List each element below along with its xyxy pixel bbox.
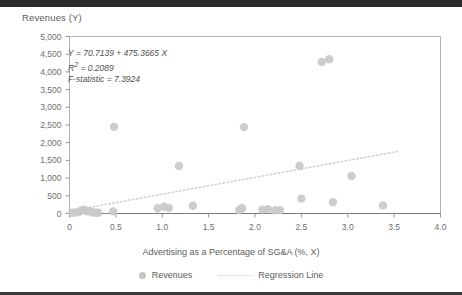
legend-line-icon xyxy=(218,275,252,276)
r-squared-line: R2 = 0.2089 xyxy=(68,60,167,74)
data-point xyxy=(318,58,326,66)
legend-label-regression: Regression Line xyxy=(258,270,323,280)
y-tick-label: 3,000 xyxy=(40,102,62,112)
x-tick-label: 0.5 xyxy=(110,222,122,232)
data-point xyxy=(94,209,102,217)
data-point xyxy=(110,123,118,131)
data-point xyxy=(379,201,387,209)
regression-annotation: Y = 70.7139 + 475.3665 X R2 = 0.2089 F-s… xyxy=(68,48,167,85)
y-tick-label: 3,500 xyxy=(40,85,62,95)
x-tick-label: 4.0 xyxy=(435,222,447,232)
y-tick-label: 4,500 xyxy=(40,49,62,59)
x-axis-title: Advertising as a Percentage of SG&A (%, … xyxy=(0,247,462,257)
data-point xyxy=(238,204,246,212)
x-tick-label: 3.5 xyxy=(388,222,400,232)
regression-line xyxy=(70,151,399,211)
data-point xyxy=(329,198,337,206)
legend-item-revenues[interactable]: Revenues xyxy=(139,270,193,280)
y-tick-label: 5,000 xyxy=(40,32,62,42)
data-point xyxy=(347,172,355,180)
legend-item-regression-line[interactable]: Regression Line xyxy=(218,270,323,280)
regression-equation: Y = 70.7139 + 475.3665 X xyxy=(68,48,167,60)
x-tick-label: 2.0 xyxy=(249,222,261,232)
legend-label-revenues: Revenues xyxy=(152,270,193,280)
x-tick-label: 1.0 xyxy=(156,222,168,232)
data-point xyxy=(189,202,197,210)
data-point xyxy=(175,162,183,170)
y-tick-label: 2,500 xyxy=(40,120,62,130)
x-tick-label: 3.0 xyxy=(342,222,354,232)
data-point xyxy=(240,123,248,131)
y-tick-label: 0 xyxy=(57,209,62,219)
x-tick-label: 2.5 xyxy=(295,222,307,232)
f-statistic-line: F-statistic = 7.3924 xyxy=(68,74,167,86)
r-squared-value: = 0.2089 xyxy=(78,62,114,72)
legend-marker-icon xyxy=(139,272,146,279)
y-tick-label: 500 xyxy=(47,191,61,201)
data-point xyxy=(276,206,284,214)
chart-legend: Revenues Regression Line xyxy=(0,270,462,280)
data-point xyxy=(297,194,305,202)
y-tick-label: 4,000 xyxy=(40,67,62,77)
x-tick-label: 0 xyxy=(67,222,72,232)
y-tick-label: 1,000 xyxy=(40,173,62,183)
x-tick-label: 1.5 xyxy=(203,222,215,232)
data-point xyxy=(325,55,333,63)
y-tick-label: 1,500 xyxy=(40,155,62,165)
data-point xyxy=(264,205,272,213)
data-point xyxy=(295,162,303,170)
y-tick-label: 2,000 xyxy=(40,138,62,148)
figure-container: Revenues (Y) 05001,0001,5002,0002,5003,0… xyxy=(0,0,462,295)
data-point xyxy=(109,207,117,215)
data-point xyxy=(165,204,173,212)
